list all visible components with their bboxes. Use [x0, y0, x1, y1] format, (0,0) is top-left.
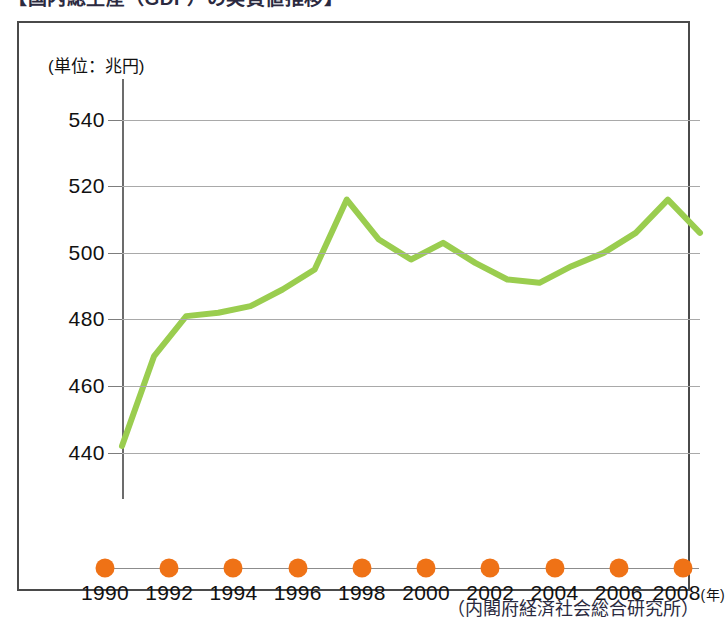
year-marker-1996[interactable]: [288, 559, 307, 578]
x-tick-label-1992: 1992: [145, 581, 193, 605]
x-axis-unit-label: (年): [701, 587, 725, 603]
y-tick-mark-480: [108, 319, 122, 320]
year-marker-2008[interactable]: [674, 559, 693, 578]
year-marker-2002[interactable]: [481, 559, 500, 578]
gridline-460: [122, 386, 700, 387]
y-axis-labels: 440460480500520540: [43, 93, 105, 486]
chart-panel: (単位：兆円) 440460480500520540 1990199219941…: [17, 21, 690, 591]
y-tick-label-500: 500: [68, 241, 105, 265]
line-series-svg: [122, 93, 700, 486]
x-tick-label-1998: 1998: [338, 581, 386, 605]
year-marker-1990[interactable]: [96, 559, 115, 578]
plot-area: [122, 93, 700, 486]
x-tick-label-2000: 2000: [402, 581, 450, 605]
year-marker-1998[interactable]: [352, 559, 371, 578]
x-tick-label-1990: 1990: [81, 581, 129, 605]
line-series-0: [122, 200, 700, 446]
year-marker-1992[interactable]: [160, 559, 179, 578]
gridline-520: [122, 186, 700, 187]
y-tick-mark-500: [108, 253, 122, 254]
year-marker-1994[interactable]: [224, 559, 243, 578]
y-tick-mark-440: [108, 453, 122, 454]
y-tick-label-440: 440: [68, 441, 105, 465]
y-tick-mark-460: [108, 386, 122, 387]
y-tick-label-460: 460: [68, 374, 105, 398]
gridline-500: [122, 253, 700, 254]
y-tick-label-540: 540: [68, 108, 105, 132]
unit-label: (単位：兆円): [48, 52, 144, 77]
y-tick-label-520: 520: [68, 174, 105, 198]
y-tick-label-480: 480: [68, 307, 105, 331]
gridline-540: [122, 120, 700, 121]
x-tick-label-1996: 1996: [274, 581, 322, 605]
y-tick-mark-520: [108, 186, 122, 187]
y-tick-mark-540: [108, 120, 122, 121]
x-tick-label-1994: 1994: [209, 581, 257, 605]
gridline-440: [122, 453, 700, 454]
year-marker-2000[interactable]: [417, 559, 436, 578]
year-marker-2004[interactable]: [545, 559, 564, 578]
page-title: 【国内総生産（GDP）の実質値推移】: [8, 0, 343, 10]
source-note: （内閣府経済社会総合研究所）: [447, 594, 699, 620]
year-marker-2006[interactable]: [609, 559, 628, 578]
gridline-480: [122, 319, 700, 320]
